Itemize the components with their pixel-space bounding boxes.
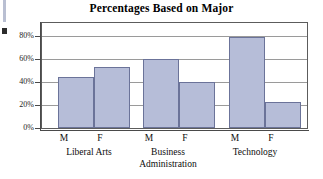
y-tick-40 xyxy=(35,82,40,83)
y-tick-80 xyxy=(35,36,40,37)
bar-label-liberal-arts-f: F xyxy=(86,133,114,144)
y-axis-label-40: 40% xyxy=(0,78,34,86)
y-axis-label-80: 80% xyxy=(0,32,34,40)
y-tick-60 xyxy=(35,59,40,60)
group-label-business-line1: Business xyxy=(120,147,216,159)
y-axis-label-60: 60% xyxy=(0,55,34,63)
bar-liberal-arts-f xyxy=(94,67,130,128)
gridline-80 xyxy=(42,36,307,37)
bar-label-technology-m: M xyxy=(221,133,249,144)
bar-technology-m xyxy=(229,37,265,128)
y-axis-label-20: 20% xyxy=(0,101,34,109)
y-tick-0 xyxy=(35,128,40,129)
group-label-business-line2: Administration xyxy=(120,159,216,171)
group-label-technology: Technology xyxy=(209,147,301,159)
bar-liberal-arts-m xyxy=(58,77,94,128)
bar-label-technology-f: F xyxy=(257,133,285,144)
bar-technology-f xyxy=(265,102,301,128)
group-label-business-administration: Business Administration xyxy=(120,147,216,170)
y-axis-label-0: 0% xyxy=(0,124,34,132)
bar-label-business-m: M xyxy=(135,133,163,144)
bar-label-liberal-arts-m: M xyxy=(50,133,78,144)
chart-screenshot: Percentages Based on Major 80% 60% 40% 2… xyxy=(0,0,323,179)
chart-title: Percentages Based on Major xyxy=(0,2,323,14)
x-axis-line xyxy=(40,130,309,131)
bar-label-business-f: F xyxy=(171,133,199,144)
bar-business-administration-f xyxy=(179,82,215,128)
plot-area xyxy=(41,22,308,129)
y-tick-20 xyxy=(35,105,40,106)
bar-business-administration-m xyxy=(143,59,179,128)
